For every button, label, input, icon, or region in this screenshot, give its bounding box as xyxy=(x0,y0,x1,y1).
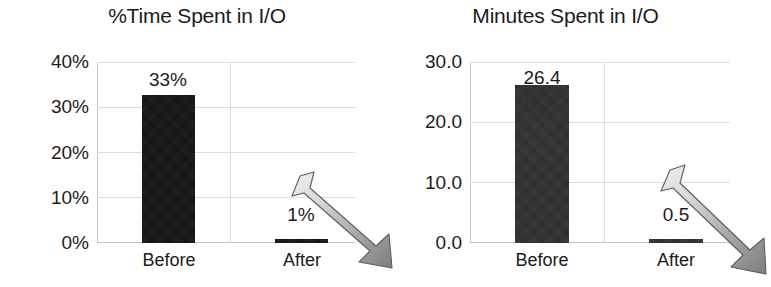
bar-after[interactable] xyxy=(649,239,703,243)
y-tick-label: 10.0 xyxy=(425,172,462,194)
gridline xyxy=(97,107,355,108)
gridline xyxy=(470,122,730,123)
y-tick-label: 30% xyxy=(51,96,89,118)
y-tick-label: 0% xyxy=(62,232,89,254)
x-category-label-after: After xyxy=(283,250,321,271)
bar-value-label-before: 26.4 xyxy=(524,67,561,89)
chart-panel-percent-time: %Time Spent in I/O 40% 30% 20% 10% 0% 33… xyxy=(0,0,372,287)
gridline xyxy=(97,62,355,63)
bar-before[interactable] xyxy=(142,95,195,244)
y-tick-label: 20.0 xyxy=(425,111,462,133)
y-tick-label: 0.0 xyxy=(436,232,462,254)
gridline xyxy=(470,182,730,183)
y-tick-label: 20% xyxy=(51,142,89,164)
y-axis-labels-minutes: 30.0 20.0 10.0 0.0 xyxy=(380,62,462,243)
plot-area-percent-time: 33% 1% xyxy=(97,62,355,243)
y-axis-labels-percent: 40% 30% 20% 10% 0% xyxy=(10,62,89,243)
chart-title-percent-time: %Time Spent in I/O xyxy=(0,4,372,28)
bar-value-label-before: 33% xyxy=(149,69,187,91)
bar-before[interactable] xyxy=(515,85,569,243)
plot-area-minutes: 26.4 0.5 xyxy=(470,62,730,243)
chart-title-minutes: Minutes Spent in I/O xyxy=(372,4,745,28)
category-divider xyxy=(604,62,605,243)
bar-after[interactable] xyxy=(275,239,328,244)
bar-value-label-after: 0.5 xyxy=(663,204,689,226)
chart-panel-minutes: Minutes Spent in I/O 30.0 20.0 10.0 0.0 … xyxy=(372,0,745,287)
y-tick-label: 40% xyxy=(51,51,89,73)
gridline xyxy=(97,152,355,153)
x-category-label-before: Before xyxy=(515,250,568,271)
bar-value-label-after: 1% xyxy=(287,204,314,226)
y-axis-line xyxy=(470,62,471,243)
gridline xyxy=(97,197,355,198)
gridline xyxy=(470,62,730,63)
category-divider xyxy=(230,62,231,243)
y-tick-label: 30.0 xyxy=(425,51,462,73)
y-tick-label: 10% xyxy=(51,187,89,209)
x-category-label-after: After xyxy=(657,250,695,271)
x-category-label-before: Before xyxy=(142,250,195,271)
